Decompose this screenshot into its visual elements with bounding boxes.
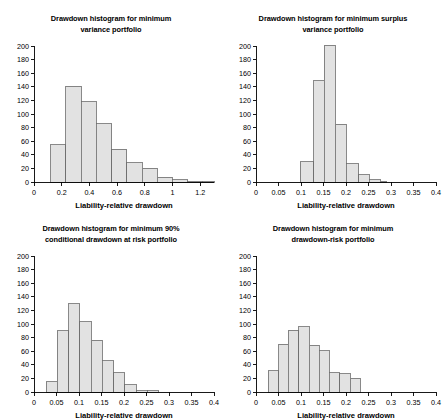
plot-minimum-drawdown-risk: 02040608010012014016018020000.050.10.150… [222,210,444,420]
x-tick-label: 1.2 [195,188,205,197]
x-axis-label: Liability-relative drawdown [75,411,173,420]
y-tick-label: 140 [239,292,251,301]
x-tick-label: 0.25 [362,188,376,197]
y-tick-label: 40 [21,150,29,159]
y-tick-label: 20 [243,164,251,173]
histogram-bar [80,322,91,392]
panel-minimum-90-cdar: Drawdown histogram for minimum 90% condi… [0,210,222,420]
histogram-bar [91,340,102,392]
y-tick-label: 60 [243,137,251,146]
y-tick-label: 200 [17,252,29,261]
histogram-bar [51,145,66,182]
histogram-bar [66,86,81,182]
histogram-bar [96,124,111,182]
histogram-bar [81,102,96,182]
histogram-bar [314,81,325,182]
x-tick-label: 0.25 [362,398,376,407]
y-tick-label: 80 [243,333,251,342]
histogram-bar [125,385,136,392]
y-tick-label: 120 [239,306,251,315]
x-tick-label: 0.05 [272,398,286,407]
y-tick-label: 120 [17,96,29,105]
histogram-bar [279,344,289,392]
x-tick-label: 0.3 [164,398,174,407]
x-tick-label: 0.15 [95,398,109,407]
y-tick-label: 60 [21,347,29,356]
y-tick-label: 60 [243,347,251,356]
x-axis-label: Liability-relative drawdown [297,201,395,210]
y-tick-label: 180 [17,265,29,274]
x-tick-label: 0.1 [296,188,306,197]
histogram-bar [359,175,370,182]
x-tick-label: 0.2 [119,398,129,407]
x-tick-label: 0 [32,398,36,407]
y-tick-label: 100 [239,110,251,119]
x-tick-label: 0.4 [84,188,94,197]
histogram-bar [112,149,127,182]
histogram-bar [340,374,350,392]
y-tick-label: 20 [243,374,251,383]
x-axis-label: Liability-relative drawdown [75,201,173,210]
y-tick-label: 40 [243,360,251,369]
y-tick-label: 0 [247,178,251,187]
x-tick-label: 0.4 [431,398,441,407]
panel-minimum-surplus-variance: Drawdown histogram for minimum surplus v… [222,0,444,210]
x-tick-label: 0.4 [431,188,441,197]
y-tick-label: 100 [239,320,251,329]
y-tick-label: 160 [17,69,29,78]
y-tick-label: 40 [243,150,251,159]
panel-minimum-variance: Drawdown histogram for minimum variance … [0,0,222,210]
plot-minimum-90-cdar: 02040608010012014016018020000.050.10.150… [0,210,222,420]
plot-minimum-variance: 02040608010012014016018020000.20.40.60.8… [0,0,222,210]
x-tick-label: 0.2 [57,188,67,197]
y-tick-label: 200 [239,42,251,51]
y-tick-label: 160 [239,69,251,78]
y-tick-label: 20 [21,164,29,173]
histogram-bar [299,327,309,392]
y-tick-label: 60 [21,137,29,146]
x-tick-label: 0.1 [74,398,84,407]
histogram-bar [335,124,346,182]
histogram-bars [300,45,386,182]
y-tick-label: 200 [239,252,251,261]
x-tick-label: 0 [254,398,258,407]
histogram-bars [268,327,360,392]
histogram-bar [288,330,298,392]
x-tick-label: 0.35 [407,398,421,407]
histogram-bar [309,345,319,392]
x-tick-label: 0.1 [296,398,306,407]
y-tick-label: 140 [239,82,251,91]
histogram-bar [300,162,314,182]
x-tick-label: 1 [170,188,174,197]
y-tick-label: 0 [247,388,251,397]
x-tick-label: 0.15 [317,188,331,197]
histogram-bar [346,164,359,182]
y-tick-label: 200 [17,42,29,51]
y-tick-label: 100 [17,110,29,119]
y-tick-label: 180 [17,55,29,64]
x-tick-label: 0.15 [317,398,331,407]
panel-minimum-drawdown-risk: Drawdown histogram for minimum drawdown-… [222,210,444,420]
histogram-bar [114,373,125,392]
y-tick-label: 80 [21,123,29,132]
x-tick-label: 0.25 [140,398,154,407]
histogram-bar [102,361,113,392]
histogram-bars [51,86,214,182]
x-tick-label: 0.3 [386,188,396,197]
histogram-bar [127,163,142,182]
histogram-bar [324,45,335,182]
histogram-bar [329,373,339,392]
y-tick-label: 140 [17,292,29,301]
histogram-bar [268,371,278,392]
x-tick-label: 0.35 [185,398,199,407]
x-tick-label: 0.4 [209,398,219,407]
plot-minimum-surplus-variance: 02040608010012014016018020000.050.10.150… [222,0,444,210]
y-tick-label: 80 [21,333,29,342]
y-tick-label: 80 [243,123,251,132]
x-tick-label: 0 [32,188,36,197]
y-tick-label: 140 [17,82,29,91]
y-tick-label: 120 [239,96,251,105]
histogram-figure-grid: Drawdown histogram for minimum variance … [0,0,444,420]
histogram-bar [142,168,157,182]
x-tick-label: 0.2 [341,398,351,407]
